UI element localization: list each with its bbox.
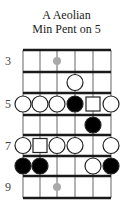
scale-note-open — [67, 75, 83, 91]
fret-inlay-dot — [53, 57, 61, 65]
fretboard-diagram: 3579 — [0, 0, 133, 201]
scale-note-open — [103, 138, 119, 154]
scale-note-open — [32, 96, 48, 112]
fret-number-label: 9 — [5, 180, 11, 194]
fret-inlay-dot — [53, 183, 61, 191]
scale-note-open — [15, 138, 31, 154]
scale-note-open — [67, 138, 83, 154]
root-note-square — [33, 139, 47, 153]
scale-note-open — [49, 96, 65, 112]
scale-note-filled — [32, 158, 48, 174]
fret-number-label: 3 — [5, 54, 11, 68]
scale-note-filled — [103, 158, 119, 174]
scale-note-filled — [85, 117, 101, 133]
scale-note-open — [85, 158, 101, 174]
scale-note-open — [15, 96, 31, 112]
scale-note-filled — [67, 96, 83, 112]
fret-number-label: 7 — [5, 139, 11, 153]
scale-note-open — [49, 138, 65, 154]
scale-note-filled — [15, 158, 31, 174]
fret-number-label: 5 — [5, 97, 11, 111]
root-note-square — [86, 97, 100, 111]
scale-note-open — [103, 96, 119, 112]
